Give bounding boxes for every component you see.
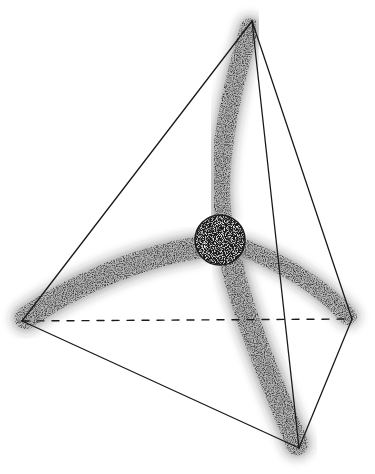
edge-left-right-hidden: [22, 319, 352, 321]
tetrahedron-diagram: [0, 0, 375, 474]
figure-canvas: [0, 0, 375, 474]
edge-right-bottom: [299, 319, 352, 448]
lobe-right: [244, 248, 348, 316]
lobe-bottom: [232, 266, 297, 444]
stippled-lobes: [26, 28, 348, 444]
central-sphere: [195, 215, 245, 265]
